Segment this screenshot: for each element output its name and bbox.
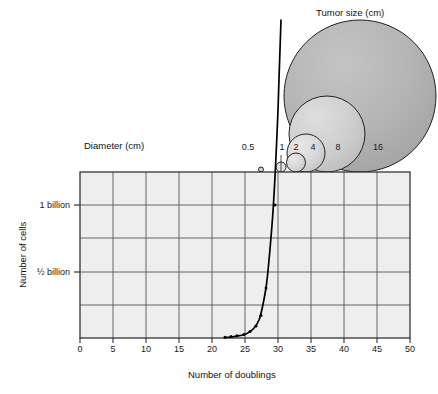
tumor-growth-figure — [0, 0, 438, 394]
y-tick-marks — [74, 205, 80, 272]
diameter-label-05: 0.5 — [236, 142, 260, 152]
plot-area — [74, 172, 410, 343]
tumor-label-16cm: 16 — [369, 142, 387, 152]
x-axis-title: Number of doublings — [188, 370, 276, 380]
x-tick-marks — [80, 338, 410, 343]
data-point — [265, 287, 268, 290]
tumor-circle-2cm — [287, 153, 306, 172]
figure-canvas: Tumor size (cm) Diameter (cm) Number of … — [0, 0, 438, 394]
data-point — [260, 314, 263, 317]
x-tick-label-5: 5 — [103, 344, 123, 354]
tumor-label-2cm: 2 — [287, 142, 305, 152]
data-point — [274, 204, 277, 207]
y-tick-label-1-billion: 1 billion — [0, 200, 70, 210]
x-tick-label-35: 35 — [301, 344, 321, 354]
tumor-label-4cm: 4 — [304, 142, 322, 152]
tumor-size-title: Tumor size (cm) — [316, 8, 384, 18]
data-point — [249, 330, 252, 333]
diameter-axis-title: Diameter (cm) — [84, 141, 144, 151]
x-tick-label-30: 30 — [268, 344, 288, 354]
y-axis-title: Number of cells — [18, 210, 28, 300]
data-point — [224, 336, 227, 339]
data-point — [255, 325, 258, 328]
x-tick-label-10: 10 — [136, 344, 156, 354]
y-tick-label-half-billion: ½ billion — [0, 267, 70, 277]
x-tick-label-15: 15 — [169, 344, 189, 354]
tumor-label-8cm: 8 — [329, 142, 347, 152]
x-tick-label-45: 45 — [367, 344, 387, 354]
x-tick-label-40: 40 — [334, 344, 354, 354]
x-tick-label-25: 25 — [235, 344, 255, 354]
data-point — [243, 333, 246, 336]
x-tick-label-50: 50 — [400, 344, 420, 354]
tumor-circle-05cm — [259, 167, 264, 172]
x-tick-label-0: 0 — [70, 344, 90, 354]
data-point — [236, 334, 239, 337]
data-point — [230, 335, 233, 338]
x-tick-label-20: 20 — [202, 344, 222, 354]
